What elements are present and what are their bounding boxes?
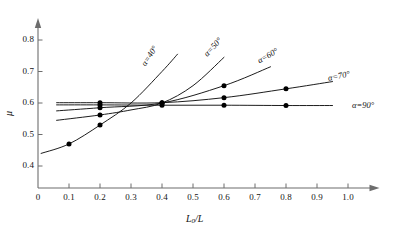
x-tick-label: 0.3 xyxy=(120,192,142,202)
x-tick-label: 0.6 xyxy=(213,192,235,202)
data-point xyxy=(160,103,165,108)
data-curves xyxy=(41,54,332,153)
y-tick-label: 0.4 xyxy=(8,160,34,170)
x-tick-label: 0.8 xyxy=(275,192,297,202)
y-tick-label: 0.7 xyxy=(8,66,34,76)
x-tick-label: 0.9 xyxy=(306,192,328,202)
x-tick-label: 0.7 xyxy=(244,192,266,202)
y-tick-label: 0.8 xyxy=(8,34,34,44)
data-point xyxy=(222,83,227,88)
data-point xyxy=(284,103,289,108)
x-axis-title-tail: /L xyxy=(195,213,203,224)
data-point-markers xyxy=(67,83,289,146)
data-point xyxy=(222,95,227,100)
data-point xyxy=(222,103,227,108)
chart-figure: 00.10.20.30.40.50.60.70.80.91.0 0.40.50.… xyxy=(0,0,404,243)
data-point xyxy=(98,102,103,107)
x-tick-label: 0.1 xyxy=(58,192,80,202)
y-tick-label: 0.6 xyxy=(8,97,34,107)
axis-ticks xyxy=(38,40,348,188)
data-point xyxy=(98,123,103,128)
series-label-alpha=90: α=90° xyxy=(352,100,374,110)
x-tick-label: 0.5 xyxy=(182,192,204,202)
x-tick-label: 0 xyxy=(27,192,49,202)
data-point xyxy=(67,141,72,146)
data-point xyxy=(98,112,103,117)
plot-area xyxy=(0,0,404,243)
data-point xyxy=(284,86,289,91)
curve-alpha=50 xyxy=(57,57,224,120)
y-tick-label: 0.5 xyxy=(8,129,34,139)
x-axis-title: L0/L xyxy=(186,213,203,225)
x-tick-label: 1.0 xyxy=(337,192,359,202)
x-tick-label: 0.4 xyxy=(151,192,173,202)
y-axis-title: μ xyxy=(3,111,14,116)
x-tick-label: 0.2 xyxy=(89,192,111,202)
